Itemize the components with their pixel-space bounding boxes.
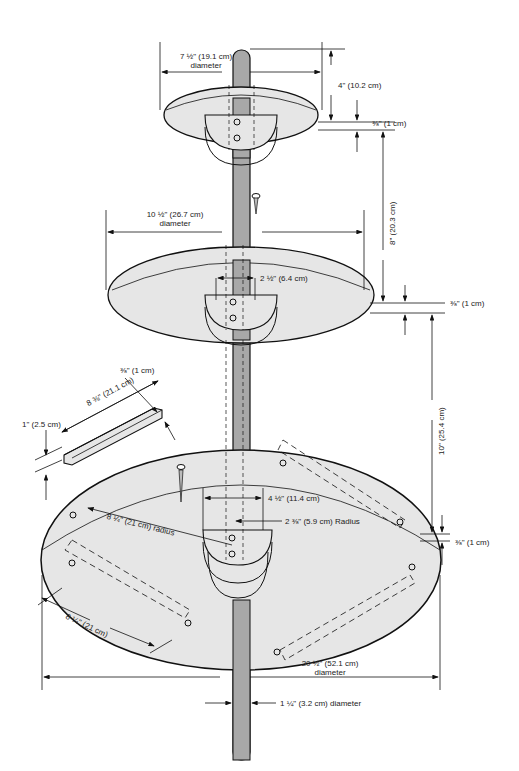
middle-bracket-width-label: 2 ½" (6.4 cm) <box>260 274 308 283</box>
top-thickness-label: ⅜" (1 cm) <box>372 119 406 128</box>
bottom-hub-radius-label: 2 ⅜" (5.9 cm) Radius <box>285 517 360 526</box>
bottom-diameter-sub: diameter <box>285 668 375 677</box>
top-diameter-label: 7 ½" (19.1 cm) <box>166 52 246 61</box>
gap-middle-bottom-label: 10" (25.4 cm) <box>437 407 446 455</box>
screw-icon <box>252 194 260 215</box>
cleat-thickness-label: ⅜" (1 cm) <box>120 366 154 375</box>
bottom-diameter-label: 20 ½" (52.1 cm) <box>285 659 375 668</box>
bottom-bracket-width-label: 4 ½" (11.4 cm) <box>268 494 320 503</box>
gap-top-middle-label: 8" (20.3 cm) <box>388 202 397 245</box>
cleat-height-label: 1" (2.5 cm) <box>22 420 61 429</box>
pole-diameter-label: 1 ¼" (3.2 cm) diameter <box>280 699 361 708</box>
bottom-thickness-label: ⅜" (1 cm) <box>455 538 489 547</box>
top-diameter-sub: diameter <box>166 61 246 70</box>
diagram-svg <box>0 0 519 771</box>
middle-diameter-sub: diameter <box>130 219 220 228</box>
middle-diameter-label: 10 ½" (26.7 cm) <box>130 210 220 219</box>
cleat <box>64 408 162 465</box>
middle-shelf <box>108 245 374 345</box>
top-shelf <box>164 85 318 165</box>
top-pole-height-label: 4" (10.2 cm) <box>338 81 381 90</box>
diagram-stage: 7 ½" (19.1 cm) diameter 4" (10.2 cm) ⅜" … <box>0 0 519 771</box>
middle-thickness-label: ⅜" (1 cm) <box>450 299 484 308</box>
